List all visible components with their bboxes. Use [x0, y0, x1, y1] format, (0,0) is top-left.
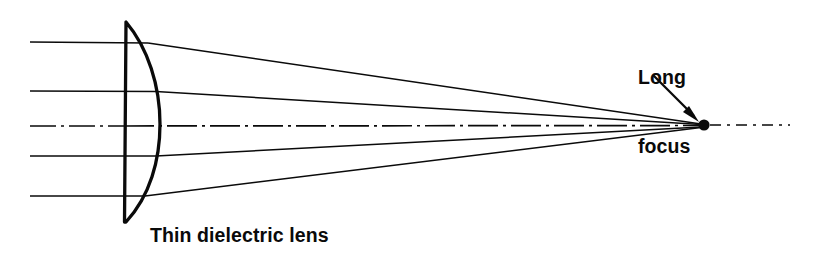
lens-outline — [125, 22, 161, 222]
focus-point-dot — [698, 119, 709, 130]
long-focus-label-line1: Long — [638, 66, 691, 89]
refracted-ray-5 — [145, 128, 701, 197]
lens-caption-label: Thin dielectric lens — [150, 224, 329, 247]
refracted-ray-4 — [156, 127, 701, 156]
refracted-ray-2 — [156, 92, 701, 125]
long-focus-label-line2: focus — [638, 135, 691, 158]
long-focus-label: Long focus — [638, 20, 691, 204]
ray-diagram-figure: Long focus Thin dielectric lens — [0, 0, 826, 259]
diagram-canvas — [0, 0, 826, 259]
optical-axis-center — [124, 126, 699, 127]
refracted-ray-1 — [148, 43, 701, 124]
incoming-ray-1 — [30, 42, 148, 43]
incoming-ray-2 — [30, 91, 156, 92]
